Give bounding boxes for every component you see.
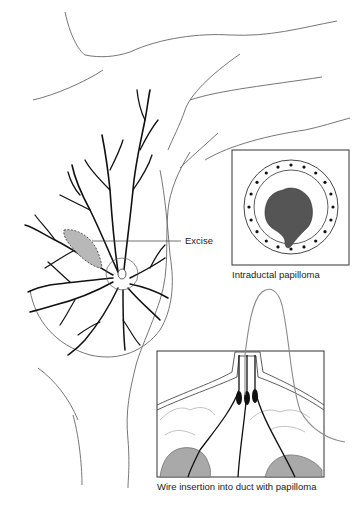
papilloma-lesions [236, 389, 258, 405]
cell-nucleus [329, 218, 332, 221]
cell-nucleus [302, 245, 305, 248]
cell-nucleus [255, 230, 258, 233]
inset-bottom-caption: Wire insertion into duct with papilloma [157, 481, 316, 492]
cell-nucleus [247, 205, 250, 208]
cell-nucleus [265, 239, 268, 242]
neck-line [33, 70, 103, 100]
cell-nucleus [314, 171, 317, 174]
cell-nucleus [289, 163, 292, 166]
excise-label: Excise [185, 235, 213, 246]
cell-nucleus [289, 247, 292, 250]
nipple [118, 269, 126, 279]
arm-line-upper [190, 77, 322, 100]
inset-intraductal-papilloma [232, 150, 349, 265]
cell-nucleus [323, 181, 326, 184]
cell-nucleus [265, 171, 268, 174]
cell-nucleus [323, 230, 326, 233]
axilla-line [180, 133, 218, 168]
inset-top-caption: Intraductal papilloma [232, 269, 320, 280]
cell-nucleus [250, 218, 253, 221]
inset-wire-insertion [157, 289, 345, 477]
cell-nucleus [276, 166, 279, 169]
cell-nucleus [329, 192, 332, 195]
arm-crease-1 [168, 54, 240, 150]
breast-duct-excision-illustration [0, 0, 362, 509]
sternum-line-1 [38, 368, 78, 420]
cell-nucleus [302, 166, 305, 169]
cell-nucleus [250, 192, 253, 195]
cell-nucleus [255, 181, 258, 184]
shoulder-line [65, 12, 337, 57]
sternum-line-2 [73, 415, 82, 485]
cell-nucleus [276, 245, 279, 248]
excision-area [64, 230, 102, 269]
cell-nucleus [314, 239, 317, 242]
cell-nucleus [331, 205, 334, 208]
duct-tree [25, 90, 168, 355]
